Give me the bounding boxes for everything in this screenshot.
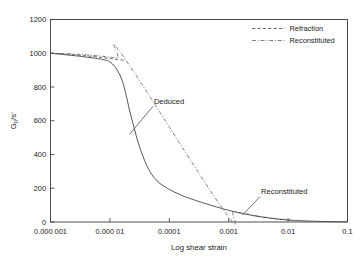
legend: Refraction Reconstituted: [252, 24, 335, 45]
x-tick-label: 0.1: [342, 227, 352, 236]
x-tick-label: 0.001: [219, 227, 238, 236]
y-axis-title: G0/s': [9, 112, 19, 129]
series-deduced-line: [51, 53, 348, 222]
y-tick-label: 0: [42, 218, 46, 227]
legend-label-refraction: Refraction: [290, 24, 324, 33]
series-group: [51, 44, 348, 224]
y-tick-label: 1200: [30, 15, 46, 24]
x-tick-label: 0.000 01: [96, 227, 125, 236]
x-axis-ticks: [51, 218, 348, 222]
x-tick-label: 0.01: [281, 227, 295, 236]
y-axis-title-rest: /s': [9, 112, 18, 120]
y-tick-label: 600: [34, 116, 46, 125]
y-tick-label: 1000: [30, 49, 46, 58]
y-axis-ticks: [51, 20, 55, 223]
y-tick-label: 400: [34, 150, 46, 159]
svg-text:G0/s': G0/s': [9, 112, 19, 129]
annotation-reconstituted: Reconstituted: [242, 187, 307, 215]
annotation-deduced: Deduced: [130, 97, 185, 134]
chart-figure: 0 200 400 600 800 1000 1200 0.000 001 0.…: [0, 0, 362, 262]
annotation-leader-line: [130, 106, 153, 134]
annotation-leader-line: [242, 197, 260, 216]
chart-canvas: 0 200 400 600 800 1000 1200 0.000 001 0.…: [0, 0, 362, 262]
x-tick-label: 0.000 001: [34, 227, 67, 236]
annotation-label: Deduced: [154, 97, 184, 106]
y-tick-label: 800: [34, 83, 46, 92]
legend-label-reconstituted: Reconstituted: [290, 36, 335, 45]
y-tick-label: 200: [34, 184, 46, 193]
x-tick-label: 0.0001: [158, 227, 181, 236]
x-axis-tick-labels: 0.000 001 0.000 01 0.0001 0.001 0.01 0.1: [34, 227, 353, 236]
x-axis-title: Log shear strain: [171, 243, 227, 252]
annotation-label: Reconstituted: [261, 187, 307, 196]
series-reconstituted-line: [51, 44, 291, 224]
y-axis-tick-labels: 0 200 400 600 800 1000 1200: [30, 15, 46, 227]
